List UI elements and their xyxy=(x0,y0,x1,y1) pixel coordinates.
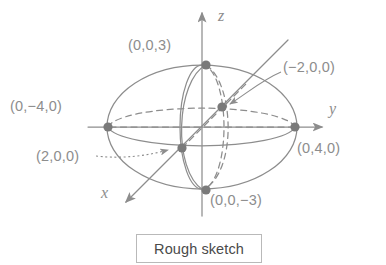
leader-x-negative xyxy=(230,72,281,104)
intercept-label-z-negative: (0,0,−3) xyxy=(210,193,262,208)
caption-box: Rough sketch xyxy=(136,234,262,263)
intercept-label-y-positive: (0,4,0) xyxy=(297,141,340,156)
x-axis-hidden-segment xyxy=(182,84,246,148)
intercept-label-x-negative: (−2,0,0) xyxy=(283,60,335,75)
axis-label-x: x xyxy=(101,185,108,201)
caption-text: Rough sketch xyxy=(154,241,244,257)
axis-label-y: y xyxy=(329,101,336,117)
figure-container: z y x (0,0,3) (0,0,−3) (0,−4,0) (0,4,0) … xyxy=(0,0,386,265)
dot-z-positive xyxy=(201,60,210,69)
ellipsoid-sketch-svg xyxy=(0,0,386,265)
dot-y-negative xyxy=(103,122,112,131)
leader-x-positive xyxy=(96,150,168,157)
intercept-label-z-positive: (0,0,3) xyxy=(128,38,171,53)
intercept-label-y-negative: (0,−4,0) xyxy=(10,99,62,114)
intercept-label-x-positive: (2,0,0) xyxy=(36,149,79,164)
dot-x-positive xyxy=(177,143,186,152)
dot-x-negative xyxy=(217,102,226,111)
axis-label-z: z xyxy=(218,8,224,24)
dot-y-positive xyxy=(290,122,299,131)
